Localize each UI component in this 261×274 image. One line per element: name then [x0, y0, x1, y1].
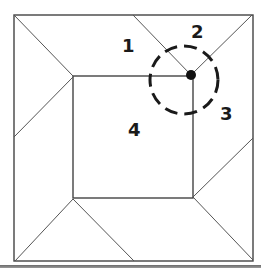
line-top-to-point — [133, 15, 191, 75]
line-inner-to-bottomright — [193, 197, 253, 260]
region-label-4: 4 — [128, 119, 141, 140]
diagram-canvas: 1 2 3 4 — [0, 0, 261, 274]
region-label-2: 2 — [191, 21, 204, 42]
line-left-to-inner — [14, 77, 73, 137]
line-inner-to-bottom — [73, 199, 134, 261]
region-label-1: 1 — [122, 35, 135, 56]
bottom-divider — [0, 265, 261, 268]
line-right-to-inner — [193, 138, 253, 197]
line-topleft-diagonal — [14, 15, 73, 76]
dashed-circle — [150, 46, 218, 114]
region-label-3: 3 — [220, 103, 233, 124]
line-inner-to-bottomleft — [15, 199, 73, 261]
marked-point — [186, 70, 196, 80]
